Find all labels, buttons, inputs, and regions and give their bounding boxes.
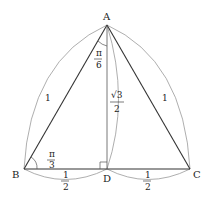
side-ad-den: 2: [114, 104, 120, 114]
label-a: A: [102, 11, 111, 22]
triangle-diagram: A B C D 1 1 1 2 1 2 √3 2 π 6 π 3: [0, 0, 211, 203]
angle-a-num: π: [96, 48, 102, 58]
side-ab-label: 1: [45, 93, 51, 103]
side-ac-label: 1: [162, 93, 168, 103]
angle-b-den: 3: [49, 160, 55, 170]
label-b: B: [12, 169, 19, 180]
label-c: C: [193, 169, 201, 180]
side-dc-den: 2: [145, 182, 151, 192]
angle-a-den: 6: [96, 60, 102, 70]
side-ad-num: √3: [111, 90, 123, 100]
side-bd-den: 2: [63, 182, 69, 192]
side-dc-num: 1: [145, 170, 151, 180]
angle-a-arc: [98, 41, 107, 46]
side-ab: [24, 25, 107, 169]
right-angle-mark: [100, 162, 107, 169]
angle-b-arc: [31, 157, 37, 169]
side-bd-num: 1: [63, 170, 69, 180]
angle-b-num: π: [49, 149, 55, 159]
label-d: D: [103, 173, 111, 184]
